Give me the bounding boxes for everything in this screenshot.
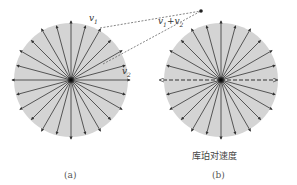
velocity-diagram — [0, 0, 297, 185]
center-point-b — [217, 76, 225, 84]
label-v1: v1 — [89, 13, 98, 25]
label-v2: v2 — [122, 66, 131, 78]
cooper-pair-velocity-label: 库珀对速度 — [192, 149, 237, 162]
caption-b: (b) — [212, 170, 225, 180]
caption-a: (a) — [64, 170, 76, 180]
dashed-v1-to-sum — [100, 11, 201, 28]
panel-b — [160, 21, 278, 139]
sum-vector-tip — [199, 9, 203, 13]
center-point-a — [67, 76, 75, 84]
label-v1-plus-v2: v1+v2 — [158, 16, 183, 28]
